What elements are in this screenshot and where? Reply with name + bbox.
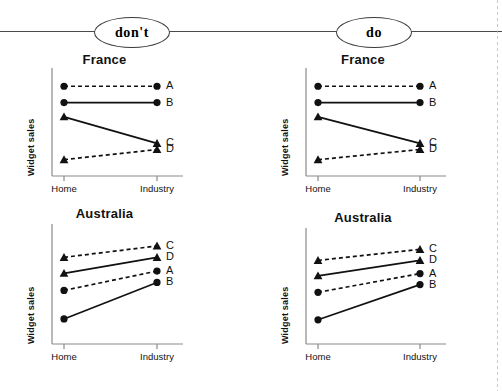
chart-title: France [22, 52, 187, 67]
marker-circle [153, 83, 160, 90]
series-endpoint-label-B: B [166, 275, 173, 287]
chart-title: Australia [276, 210, 450, 225]
plot-area [262, 52, 494, 204]
plot-area [262, 204, 494, 386]
series-B [60, 279, 160, 323]
badge-do: do [336, 17, 412, 48]
series-A [314, 83, 423, 90]
series-A [60, 83, 160, 90]
marker-circle [314, 83, 321, 90]
marker-circle [153, 279, 160, 286]
header-rule [0, 31, 502, 32]
x-tick-label-home: Home [44, 183, 84, 194]
badge-dont: don't [94, 17, 170, 48]
x-tick-label-home: Home [44, 351, 84, 362]
series-endpoint-label-D: D [166, 250, 174, 262]
series-endpoint-label-B: B [429, 96, 436, 108]
y-axis-label: Widget sales [26, 287, 36, 344]
x-tick-label-home: Home [298, 183, 338, 194]
marker-triangle [314, 112, 323, 120]
marker-circle [60, 99, 67, 106]
marker-triangle [416, 256, 425, 264]
series-endpoint-label-D: D [429, 142, 437, 154]
marker-circle [153, 267, 160, 274]
chart-dont-france: FranceWidget salesABCDHomeIndustry [12, 52, 227, 204]
chart-title: France [276, 52, 450, 67]
x-tick-label-home: Home [298, 351, 338, 362]
y-axis-label: Widget sales [280, 119, 290, 176]
plot-area [12, 52, 227, 204]
marker-circle [416, 281, 423, 288]
right-edge-dashed-divider [497, 0, 498, 391]
x-tick-label-industry: Industry [137, 183, 177, 194]
badge-do-label: do [366, 25, 382, 41]
marker-circle [153, 99, 160, 106]
series-D [60, 145, 162, 163]
series-D [314, 145, 425, 163]
series-endpoint-label-D: D [429, 253, 437, 265]
chart-dont-australia: AustraliaWidget salesCDABHomeIndustry [12, 204, 227, 386]
series-C [314, 245, 425, 264]
axis-lines [52, 224, 183, 349]
y-axis-label: Widget sales [280, 287, 290, 344]
x-tick-label-industry: Industry [137, 351, 177, 362]
series-endpoint-label-A: A [166, 79, 173, 91]
marker-circle [416, 83, 423, 90]
series-C [60, 242, 162, 261]
badge-dont-label: don't [115, 25, 149, 41]
axis-lines [306, 228, 446, 349]
marker-circle [60, 83, 67, 90]
series-endpoint-label-C: C [166, 239, 174, 251]
series-endpoint-label-A: A [429, 79, 436, 91]
x-tick-label-industry: Industry [400, 183, 440, 194]
figure-canvas: don't do FranceWidget salesABCDHomeIndus… [0, 0, 502, 391]
marker-triangle [153, 242, 162, 250]
series-B [60, 99, 160, 106]
chart-title: Australia [22, 206, 187, 221]
series-B [314, 99, 423, 106]
series-C [60, 112, 162, 146]
series-endpoint-label-B: B [166, 96, 173, 108]
chart-do-france: FranceWidget salesABCDHomeIndustry [262, 52, 494, 204]
marker-circle [416, 270, 423, 277]
series-endpoint-label-A: A [166, 264, 173, 276]
marker-triangle [153, 253, 162, 261]
marker-circle [314, 289, 321, 296]
marker-circle [314, 316, 321, 323]
x-tick-label-industry: Industry [400, 351, 440, 362]
series-endpoint-label-D: D [166, 142, 174, 154]
marker-circle [60, 315, 67, 322]
marker-triangle [60, 112, 69, 120]
marker-circle [60, 287, 67, 294]
series-endpoint-label-B: B [429, 278, 436, 290]
marker-circle [314, 99, 321, 106]
y-axis-label: Widget sales [26, 119, 36, 176]
series-C [314, 112, 425, 146]
axis-lines [52, 68, 183, 181]
chart-do-australia: AustraliaWidget salesCDABHomeIndustry [262, 204, 494, 386]
marker-circle [416, 99, 423, 106]
axis-lines [306, 68, 446, 181]
series-B [314, 281, 423, 323]
